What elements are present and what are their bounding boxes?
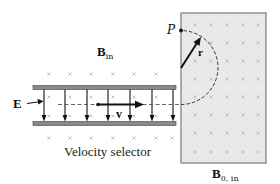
e-field-pointer-arrow: [27, 99, 44, 105]
magnetic-field-region-box: [181, 13, 266, 163]
top-plate: [33, 86, 176, 90]
e-field-label: E: [13, 96, 22, 111]
bottom-plate: [33, 122, 176, 126]
x-marks-selector: [47, 72, 173, 139]
radius-label: r: [198, 46, 203, 58]
velocity-selector-caption: Velocity selector: [64, 144, 151, 160]
point-p-label: P: [166, 23, 176, 37]
b-in-label: Bin: [97, 44, 113, 61]
point-p-dot: [179, 29, 183, 33]
velocity-label: v: [116, 107, 122, 121]
b0-in-label: B0, in: [212, 166, 239, 183]
